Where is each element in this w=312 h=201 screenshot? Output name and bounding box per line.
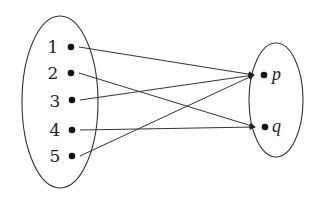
codomain-label: p	[270, 64, 281, 84]
domain-element: 5	[50, 146, 76, 166]
domain-element: 3	[50, 91, 76, 111]
domain-dot	[68, 44, 75, 51]
codomain-element: p	[261, 64, 281, 84]
domain-label: 1	[48, 37, 59, 57]
domain-elements: 1 2 3 4 5	[48, 37, 76, 166]
domain-label: 4	[50, 120, 61, 140]
domain-element: 4	[50, 120, 76, 140]
domain-dot	[69, 153, 76, 160]
domain-label: 3	[50, 91, 61, 111]
domain-label: 2	[48, 63, 59, 83]
mapping-arrow-2-to-q	[79, 73, 255, 127]
mapping-arrow-4-to-q	[80, 127, 255, 130]
codomain-elements: p q	[261, 64, 281, 136]
domain-dot	[69, 97, 76, 104]
mapping-arrows	[79, 47, 255, 156]
mapping-diagram: 1 2 3 4 5 p q	[0, 0, 312, 201]
codomain-dot	[261, 72, 268, 79]
mapping-arrow-1-to-p	[79, 47, 254, 75]
domain-label: 5	[50, 146, 61, 166]
domain-dot	[68, 70, 75, 77]
codomain-element: q	[262, 116, 281, 136]
domain-dot	[69, 127, 76, 134]
codomain-label: q	[272, 116, 281, 136]
codomain-set-ellipse	[249, 43, 303, 157]
codomain-dot	[262, 124, 269, 131]
domain-element: 2	[48, 63, 75, 83]
domain-element: 1	[48, 37, 75, 57]
